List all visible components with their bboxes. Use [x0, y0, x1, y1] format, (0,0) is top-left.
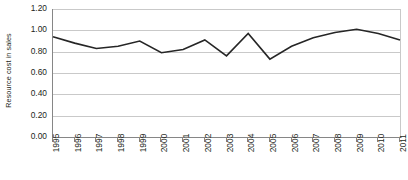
- x-axis-tick-label-text: 2010: [377, 134, 386, 153]
- x-axis-tick-label: 2006: [285, 143, 297, 177]
- x-axis-tick-label-text: 2003: [226, 134, 235, 153]
- x-axis-tick-label: 2002: [198, 143, 210, 177]
- x-axis-tick-label-text: 2000: [160, 134, 169, 153]
- x-axis-tick-label-text: 2005: [269, 134, 278, 153]
- x-axis-tick-label-text: 2008: [334, 134, 343, 153]
- x-axis-tick-label-text: 2006: [291, 134, 300, 153]
- x-axis-tick-label: 1997: [89, 143, 101, 177]
- y-axis-tick-label: 1.20: [31, 4, 47, 13]
- x-axis-tick-label-text: 2004: [247, 134, 256, 153]
- x-axis-tick-label-text: 1995: [52, 134, 61, 153]
- y-axis-tick-label: 0.40: [31, 89, 47, 98]
- x-axis-tick-label-text: 2009: [356, 134, 365, 153]
- x-axis-tick-label: 2008: [328, 143, 340, 177]
- x-axis-tick-label: 2010: [371, 143, 383, 177]
- y-axis-title: Resource cost in sales: [0, 0, 16, 140]
- y-axis-tick-label: 0.80: [31, 47, 47, 56]
- x-axis-tick-label-text: 2001: [182, 134, 191, 153]
- x-axis-tick-label: 2003: [220, 143, 232, 177]
- series-line-resource-cost-in-sales: [53, 9, 401, 137]
- plot-area: [52, 9, 401, 138]
- y-axis-title-label: Resource cost in sales: [4, 33, 13, 108]
- y-axis-tick-labels: 1.201.000.800.600.400.200.00: [16, 0, 50, 140]
- y-axis-tick-label: 0.00: [31, 132, 47, 141]
- x-axis-tick-label: 2001: [176, 143, 188, 177]
- x-axis-tick-label: 2000: [154, 143, 166, 177]
- x-axis-tick-label: 1999: [133, 143, 145, 177]
- x-axis-tick-label: 2009: [350, 143, 362, 177]
- x-axis-tick-label-text: 1997: [95, 134, 104, 153]
- y-axis-tick-label: 0.60: [31, 68, 47, 77]
- x-axis-tick-label: 2007: [306, 143, 318, 177]
- x-axis-tick-label: 1998: [111, 143, 123, 177]
- y-axis-tick-label: 0.20: [31, 111, 47, 120]
- x-axis-tick-label: 1996: [68, 143, 80, 177]
- x-axis-tick-label-text: 1996: [74, 134, 83, 153]
- x-axis-tick-label-text: 2011: [399, 134, 408, 152]
- x-axis-tick-label: 2011: [393, 143, 405, 177]
- x-axis-tick-label-text: 2002: [204, 134, 213, 153]
- x-axis-tick-labels: 1995199619971998199920002001200220032004…: [52, 143, 401, 180]
- y-axis-tick-label: 1.00: [31, 25, 47, 34]
- x-axis-tick-label-text: 1998: [117, 134, 126, 153]
- x-axis-tick-label: 2004: [241, 143, 253, 177]
- x-axis-tick-label: 2005: [263, 143, 275, 177]
- x-axis-tick-label-text: 2007: [312, 134, 321, 153]
- x-axis-tick-label-text: 1999: [139, 134, 148, 153]
- x-axis-tick-label: 1995: [46, 143, 58, 177]
